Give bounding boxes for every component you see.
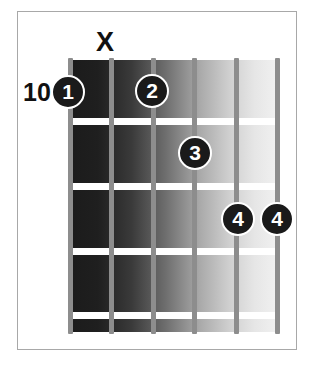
finger-marker-3: 3 bbox=[178, 136, 212, 170]
fret-line-3 bbox=[68, 248, 280, 255]
string-5 bbox=[234, 58, 239, 334]
muted-string-x-icon: X bbox=[96, 29, 114, 56]
fretboard bbox=[68, 60, 280, 332]
fret-number-label: 10 bbox=[23, 80, 51, 105]
string-2 bbox=[109, 58, 114, 334]
string-6 bbox=[275, 58, 280, 334]
fret-line-1 bbox=[68, 118, 280, 125]
fret-line-4 bbox=[68, 312, 280, 319]
fret-line-2 bbox=[68, 183, 280, 190]
finger-marker-1: 1 bbox=[51, 75, 85, 109]
chord-diagram-page: X 10 1 2 3 4 4 bbox=[0, 0, 316, 366]
string-4 bbox=[192, 58, 197, 334]
finger-marker-4-string-6: 4 bbox=[260, 202, 294, 236]
guitar-chord-diagram: X 10 1 2 3 4 4 bbox=[0, 0, 316, 366]
finger-marker-2: 2 bbox=[135, 74, 169, 108]
finger-marker-4-string-5: 4 bbox=[221, 202, 255, 236]
